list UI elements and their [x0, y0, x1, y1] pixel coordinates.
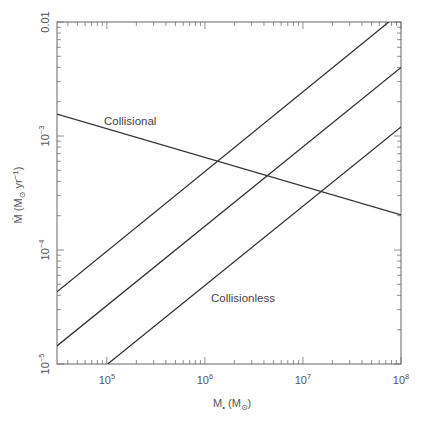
series-layer	[57, 22, 401, 364]
accretion-rate-chart: 105106107108 0.0110−310−410−5 Collisiona…	[0, 0, 422, 425]
y-tick-label: 10−4	[37, 240, 51, 261]
annotation-collisional: Collisional	[104, 115, 156, 127]
x-tick-label: 105	[99, 372, 115, 386]
x-tick-label: 107	[295, 372, 311, 386]
y-axis-title: Ṁ (M⊙ yr−1)	[11, 167, 27, 224]
y-tick-label: 10−5	[37, 354, 51, 375]
x-axis-title: M• (M⊙)	[213, 397, 251, 412]
plot-frame	[57, 22, 401, 364]
series-line-collisional	[57, 114, 401, 215]
minor-ticks	[57, 22, 401, 364]
annotation-collisionless: Collisionless	[211, 292, 275, 304]
series-line-collisionless-1	[57, 22, 389, 292]
x-tick-label: 106	[197, 372, 213, 386]
y-tick-label: 10−3	[37, 126, 51, 147]
y-tick-label: 0.01	[39, 11, 51, 32]
series-line-collisionless-3	[108, 127, 401, 364]
series-line-collisionless-2	[57, 67, 401, 346]
x-tick-labels: 105106107108	[99, 372, 410, 386]
x-tick-label: 108	[393, 372, 409, 386]
y-tick-labels: 0.0110−310−410−5	[37, 11, 51, 374]
